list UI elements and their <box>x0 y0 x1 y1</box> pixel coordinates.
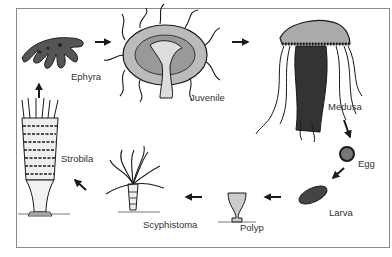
polyp-illustration <box>218 193 256 222</box>
scyphistoma-illustration <box>106 146 164 212</box>
label-larva: Larva <box>329 207 353 218</box>
ephyra-illustration <box>22 38 83 69</box>
arrow-scyphistoma-to-strobila <box>75 180 86 190</box>
arrow-egg-to-larva <box>333 168 344 178</box>
egg-illustration <box>340 147 354 161</box>
label-juvenile: Juvenile <box>190 92 225 103</box>
juvenile-illustration <box>104 4 220 102</box>
label-scyphistoma: Scyphistoma <box>143 219 197 230</box>
label-strobila: Strobila <box>61 153 93 164</box>
label-medusa: Medusa <box>328 101 362 112</box>
larva-illustration <box>296 182 329 207</box>
label-polyp: Polyp <box>240 222 264 233</box>
label-egg: Egg <box>358 158 375 169</box>
arrow-medusa-to-egg <box>344 120 350 137</box>
label-ephyra: Ephyra <box>71 71 101 82</box>
